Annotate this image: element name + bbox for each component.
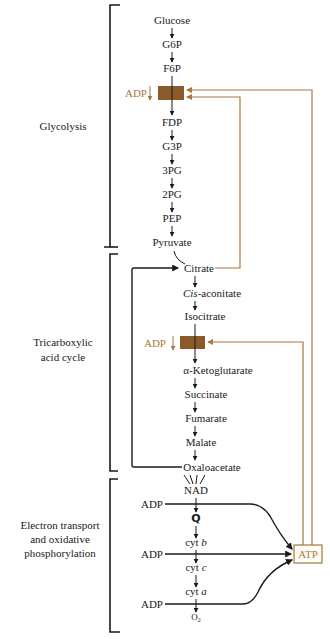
enzyme-box-pfk [158,86,184,100]
adp-input-2: ADP [141,548,163,560]
node-o2: O2 [191,612,201,623]
citrate-inhibition-pfk [187,97,240,268]
node-pep: PEP [163,212,182,224]
node-malate: Malate [186,436,217,448]
regulator-adp-tca: ADP [144,337,166,349]
bracket-tca [110,254,118,471]
tca-cycle-return-arrow [132,268,182,467]
node-nad: NAD [184,484,208,496]
node-oxaloacetate: Oxaloacetate [183,461,241,473]
node-q: Q [191,512,200,525]
nad-input-arrows [184,475,205,484]
metabolic-pathway-diagram: Glycolysis Tricarboxylic acid cycle Elec… [0,0,330,639]
section-label-etc-line3: phosphorylation [24,547,96,559]
section-label-glycolysis: Glycolysis [39,120,86,132]
section-label-tca-line2: acid cycle [41,351,85,363]
enzyme-box-idh [180,336,205,349]
node-succinate: Succinate [185,388,228,400]
node-alpha-ketoglutarate: α-Ketoglutarate [183,364,252,376]
node-g6p: G6P [162,38,182,50]
node-fdp: FDP [162,116,182,128]
node-cyt-c: cyt c [185,561,206,573]
tca-pathway: Citrate Cis-aconitate Isocitrate ADP α-K… [144,262,253,473]
node-isocitrate: Isocitrate [185,310,226,322]
node-cis-aconitate: Cis-aconitate [183,287,241,299]
node-fumarate: Fumarate [185,412,227,424]
atp-label: ATP [298,548,318,560]
node-3pg: 3PG [162,164,182,176]
node-citrate: Citrate [184,262,214,274]
node-cyt-b: cyt b [185,536,207,548]
node-g3p: G3P [162,140,182,152]
node-cyt-a: cyt a [185,585,207,597]
glycolysis-pathway: Glucose G6P F6P ADP FDP G3P 3PG 2PG PEP … [125,14,192,248]
section-label-tca-line1: Tricarboxylic [33,336,93,348]
section-label-etc-line1: Electron transport [20,519,99,531]
section-label-etc-line2: and oxidative [30,533,90,545]
bracket-glycolysis [104,5,120,247]
node-pyruvate: Pyruvate [152,236,191,248]
node-f6p: F6P [163,62,181,74]
adp-input-1: ADP [141,498,163,510]
regulator-adp-glycolysis: ADP [125,87,147,99]
node-2pg: 2PG [162,188,182,200]
bracket-etc [110,479,120,632]
adp-input-3: ADP [141,598,163,610]
adp-to-atp-arrows: ADP ADP ADP [141,498,292,610]
node-glucose: Glucose [154,14,190,26]
